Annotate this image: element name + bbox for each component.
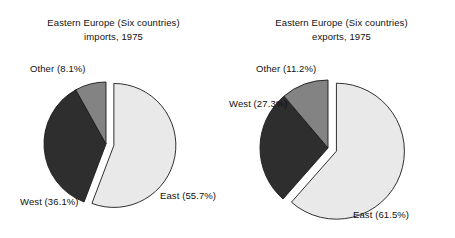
pie-label-exports-east: East (61.5%)	[353, 209, 409, 221]
pie-label-exports-west: West (27.3%)	[229, 98, 288, 110]
chart-panel-exports: Eastern Europe (Six countries) exports, …	[228, 0, 455, 238]
chart-panel-imports: Eastern Europe (Six countries) imports, …	[0, 0, 227, 238]
pie-label-imports-other: Other (8.1%)	[30, 63, 86, 75]
pie-label-exports-other: Other (11.2%)	[256, 63, 316, 75]
pie-chart-figure: Eastern Europe (Six countries) imports, …	[0, 0, 455, 238]
pie-label-imports-west: West (36.1%)	[20, 196, 79, 208]
pie-label-imports-east: East (55.7%)	[160, 190, 216, 202]
pie-imports-slices	[44, 82, 176, 207]
pie-exports	[228, 0, 455, 238]
